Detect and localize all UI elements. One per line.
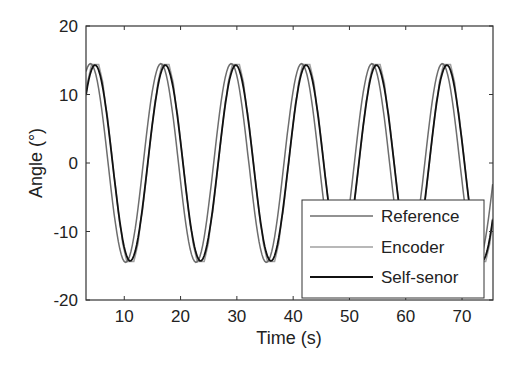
y-tick-label: 0 [69, 154, 78, 173]
y-tick-label: -20 [53, 291, 78, 310]
line-chart: 10203040506070 -20-1001020 Time (s) Angl… [0, 0, 525, 378]
x-tick-label: 40 [284, 307, 303, 326]
x-tick-label: 20 [171, 307, 190, 326]
y-tick-label: 10 [59, 86, 78, 105]
legend-label-reference: Reference [381, 207, 459, 226]
x-tick-label: 70 [453, 307, 472, 326]
x-axis-label: Time (s) [256, 328, 321, 348]
y-tick-label: 20 [59, 17, 78, 36]
legend-label-self-senor: Self-senor [381, 268, 459, 287]
x-tick-label: 60 [396, 307, 415, 326]
legend-label-encoder: Encoder [381, 238, 445, 257]
x-tick-label: 30 [227, 307, 246, 326]
legend: Reference Encoder Self-senor [302, 200, 484, 298]
y-axis-label: Angle (°) [26, 128, 46, 198]
x-tick-label: 50 [340, 307, 359, 326]
x-tick-label: 10 [115, 307, 134, 326]
y-tick-label: -10 [53, 223, 78, 242]
